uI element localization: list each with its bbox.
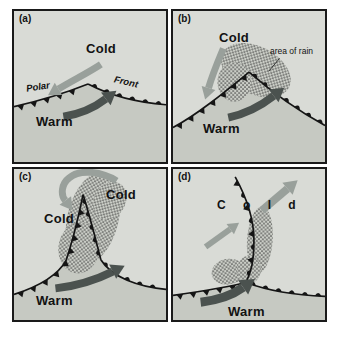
- panel-b: (b) Cold area of rain Warm: [171, 9, 327, 164]
- warm-label: Warm: [203, 122, 240, 135]
- panel-a-tag: (a): [19, 14, 31, 24]
- panel-c-tag: (c): [19, 172, 31, 182]
- panel-d-tag: (d): [178, 172, 191, 182]
- cold-label: Cold: [86, 42, 116, 55]
- panel-d: (d) C o l d Warm: [171, 167, 327, 322]
- area-of-rain-label: area of rain: [270, 47, 313, 56]
- panel-d-drawing: [173, 169, 325, 320]
- front-pip-semicircle: [315, 293, 322, 296]
- cold-air-arrow: [206, 229, 231, 247]
- warm-label: Warm: [36, 294, 73, 307]
- panel-c: (c) Cold Cold Warm: [12, 167, 168, 322]
- cold-label-spaced: C o l d: [217, 199, 303, 211]
- warm-label: Warm: [36, 115, 73, 128]
- cold-label-left: Cold: [44, 212, 74, 225]
- warm-label: Warm: [228, 305, 265, 318]
- cold-air-arrowhead: [202, 86, 216, 100]
- cyclone-life-cycle-figure: (a) Cold Polar Front Warm (b) Cold area …: [0, 0, 341, 339]
- panel-a: (a) Cold Polar Front Warm: [12, 9, 168, 164]
- panel-b-tag: (b): [178, 14, 191, 24]
- cold-label: Cold: [219, 31, 249, 44]
- cold-label-right: Cold: [106, 188, 136, 201]
